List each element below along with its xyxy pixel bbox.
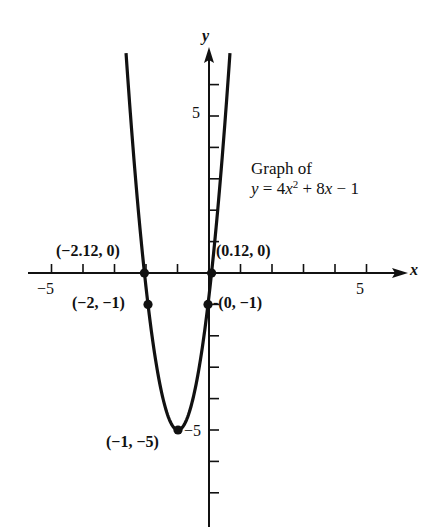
point-label-vertex: (−1, −5) [106, 434, 159, 450]
eq-part-3: − 1 [332, 179, 359, 198]
eq-var-x: x [285, 179, 293, 198]
caption-equation: y = 4x2 + 8x − 1 [251, 179, 359, 197]
data-point-marker [203, 300, 212, 309]
data-point-marker [207, 268, 216, 277]
point-label-left-point: (−2, −1) [72, 295, 125, 311]
graph-caption: Graph of y = 4x2 + 8x − 1 [251, 160, 359, 197]
eq-y: y [251, 179, 259, 198]
point-label-right-root: (0.12, 0) [216, 243, 271, 259]
y-tick-label-max: 5 [192, 105, 200, 121]
data-point-marker [173, 425, 182, 434]
point-label-y-intercept: -(0, −1) [213, 295, 262, 311]
plot-area [0, 0, 434, 530]
parabola-curve [126, 53, 230, 430]
x-tick-label-min: −5 [37, 281, 54, 297]
point-label-left-root: (−2.12, 0) [56, 243, 120, 259]
eq-part-2: + 8 [298, 179, 325, 198]
caption-line-1: Graph of [251, 160, 359, 177]
parabola-figure: x y −5 5 5 −5 (−2.12, 0) (0.12, 0) (−2, … [0, 0, 434, 530]
x-tick-label-max: 5 [356, 281, 364, 297]
data-point-marker [140, 268, 149, 277]
eq-part-1: = 4 [259, 179, 286, 198]
x-axis-label: x [410, 262, 418, 278]
y-tick-label-min: −5 [184, 423, 201, 439]
data-point-marker [143, 300, 152, 309]
y-axis-label: y [202, 28, 209, 44]
